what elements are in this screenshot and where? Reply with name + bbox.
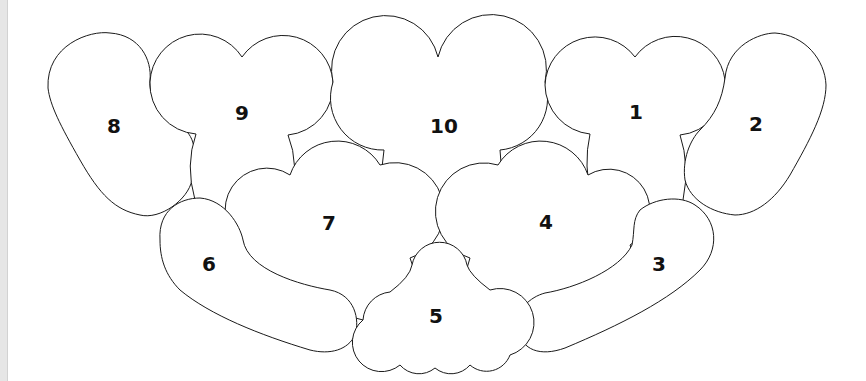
piece-1-label: 1 [629, 100, 643, 124]
piece-8-label: 8 [107, 114, 121, 138]
piece-9-label: 9 [235, 101, 249, 125]
piece-10-label: 10 [430, 114, 458, 138]
lobed-pieces-diagram: 89101274635 [0, 0, 866, 381]
piece-6-label: 6 [202, 252, 216, 276]
piece-5-label: 5 [429, 304, 443, 328]
piece-4-label: 4 [539, 210, 553, 234]
piece-3-label: 3 [652, 252, 666, 276]
piece-2-label: 2 [749, 112, 763, 136]
piece-7-label: 7 [322, 211, 336, 235]
